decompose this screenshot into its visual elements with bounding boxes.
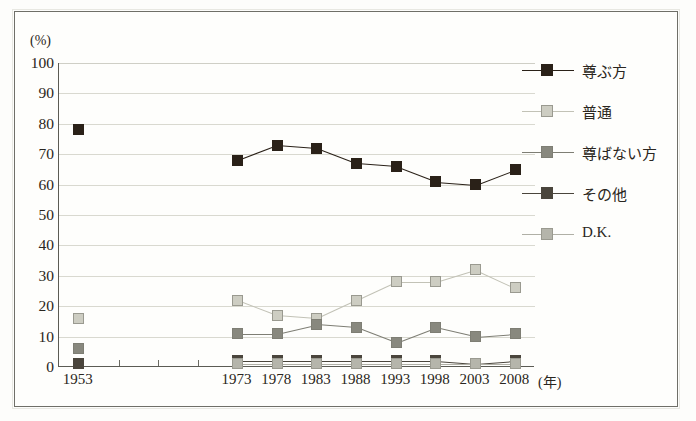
legend-marker-swatch (541, 228, 553, 240)
data-point-marker (351, 158, 362, 169)
gridline (59, 276, 535, 277)
x-axis-tick (198, 360, 199, 366)
x-axis-tick (119, 360, 120, 366)
gridline (59, 93, 535, 94)
legend-label: 尊ばない方 (582, 142, 657, 163)
data-point-marker (391, 358, 402, 369)
x-axis-tick (158, 360, 159, 366)
data-point-marker (232, 295, 243, 306)
legend-label: D.K. (582, 224, 611, 241)
gridline (59, 306, 535, 307)
data-point-marker (430, 276, 441, 287)
gridline (59, 215, 535, 216)
gridline (59, 63, 535, 64)
data-point-marker (73, 124, 84, 135)
data-point-marker (470, 179, 481, 190)
legend-item[interactable]: 尊ぶ方 (520, 58, 670, 99)
data-point-marker (311, 319, 322, 330)
y-tick-label: 60 (20, 177, 54, 193)
gridline (59, 245, 535, 246)
data-point-marker (430, 322, 441, 333)
gridline (59, 337, 535, 338)
data-point-marker (391, 337, 402, 348)
y-tick-label: 0 (20, 359, 54, 375)
x-tick-label: 2008 (488, 372, 540, 387)
y-tick-label: 100 (20, 55, 54, 71)
data-point-marker (510, 282, 521, 293)
y-tick-label: 80 (20, 116, 54, 132)
data-point-marker (232, 358, 243, 369)
legend-item[interactable]: 普通 (520, 99, 670, 140)
data-point-marker (470, 358, 481, 369)
legend-marker-swatch (541, 105, 553, 117)
data-point-marker (470, 331, 481, 342)
y-tick-label: 50 (20, 207, 54, 223)
legend-item[interactable]: D.K. (520, 222, 670, 263)
x-tick-label: 1953 (52, 372, 104, 387)
data-point-marker (351, 295, 362, 306)
y-tick-label: 30 (20, 268, 54, 284)
legend-item[interactable]: 尊ばない方 (520, 140, 670, 181)
chart-page: (%) 1009080706050403020100 1953197319781… (0, 0, 696, 421)
y-tick-label: 90 (20, 85, 54, 101)
x-axis-unit-label: (年) (538, 371, 561, 391)
data-point-marker (470, 264, 481, 275)
data-point-marker (232, 328, 243, 339)
legend-label: 尊ぶ方 (582, 60, 627, 81)
gridline (59, 124, 535, 125)
data-point-marker (73, 313, 84, 324)
data-point-marker (311, 143, 322, 154)
plot-area (58, 63, 534, 367)
gridline (59, 154, 535, 155)
y-axis-tick-labels: 1009080706050403020100 (16, 0, 54, 421)
data-point-marker (430, 358, 441, 369)
y-tick-label: 20 (20, 298, 54, 314)
data-point-marker (272, 140, 283, 151)
legend-marker-swatch (541, 187, 553, 199)
data-point-marker (510, 164, 521, 175)
data-point-marker (510, 328, 521, 339)
data-point-marker (272, 328, 283, 339)
y-tick-label: 10 (20, 329, 54, 345)
data-point-marker (232, 155, 243, 166)
legend-marker-swatch (541, 146, 553, 158)
legend-label: 普通 (582, 101, 612, 122)
y-tick-label: 70 (20, 146, 54, 162)
data-point-marker (272, 310, 283, 321)
data-point-marker (272, 358, 283, 369)
data-point-marker (510, 358, 521, 369)
legend-item[interactable]: その他 (520, 181, 670, 222)
data-point-marker (73, 358, 84, 369)
data-point-marker (391, 161, 402, 172)
legend-label: その他 (582, 183, 627, 204)
data-point-marker (311, 358, 322, 369)
chart-legend: 尊ぶ方普通尊ばない方その他D.K. (520, 58, 670, 263)
data-point-marker (351, 322, 362, 333)
legend-marker-swatch (541, 64, 553, 76)
data-point-marker (430, 176, 441, 187)
data-point-marker (391, 276, 402, 287)
y-tick-label: 40 (20, 237, 54, 253)
data-point-marker (73, 343, 84, 354)
data-point-marker (351, 358, 362, 369)
